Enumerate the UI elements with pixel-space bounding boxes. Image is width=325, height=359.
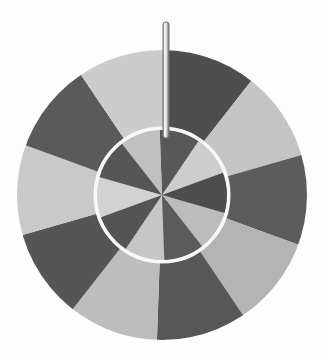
wheel-pointer[interactable]	[163, 22, 169, 138]
wheel-scene	[0, 0, 325, 359]
pointer-highlight	[165, 24, 167, 136]
prize-wheel-graphic[interactable]	[0, 0, 325, 359]
